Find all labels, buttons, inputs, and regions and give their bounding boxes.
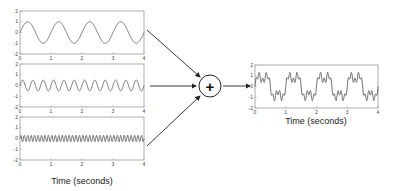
svg-text:2: 2 xyxy=(15,8,18,14)
svg-text:-1: -1 xyxy=(14,40,19,46)
svg-text:-1: -1 xyxy=(14,93,19,99)
svg-text:0: 0 xyxy=(19,55,22,61)
svg-text:1: 1 xyxy=(284,109,287,115)
input-plot-3hz: 210-1-201234 xyxy=(14,61,146,114)
sum-node: + xyxy=(199,75,221,97)
svg-text:1: 1 xyxy=(50,55,53,61)
input-plot-9hz: 210-1-201234 xyxy=(14,114,146,167)
input-plot-1hz: 210-1-201234 xyxy=(14,8,146,61)
svg-text:0: 0 xyxy=(250,83,253,89)
svg-text:0: 0 xyxy=(15,29,18,35)
svg-text:4: 4 xyxy=(377,109,380,115)
svg-text:-1: -1 xyxy=(249,94,254,100)
svg-text:1: 1 xyxy=(50,108,53,114)
sum-of-sinusoids-diagram: 210-1-201234 210-1-201234 210-1-201234 2… xyxy=(0,0,396,191)
svg-text:2: 2 xyxy=(81,55,84,61)
svg-text:-1: -1 xyxy=(14,146,19,152)
svg-text:-2: -2 xyxy=(14,51,19,57)
svg-text:3: 3 xyxy=(112,161,115,167)
input-x-axis-label: Time (seconds) xyxy=(51,176,113,186)
arrow-input-1 xyxy=(147,30,200,77)
svg-text:0: 0 xyxy=(15,82,18,88)
plus-icon: + xyxy=(206,78,215,95)
svg-text:-2: -2 xyxy=(14,104,19,110)
svg-text:2: 2 xyxy=(81,161,84,167)
svg-text:1: 1 xyxy=(15,18,18,24)
svg-text:2: 2 xyxy=(250,62,253,68)
svg-text:3: 3 xyxy=(112,108,115,114)
svg-text:3: 3 xyxy=(112,55,115,61)
output-plot-sum: 210-1-201234 xyxy=(249,62,380,115)
svg-text:0: 0 xyxy=(19,108,22,114)
svg-text:4: 4 xyxy=(143,55,146,61)
svg-text:0: 0 xyxy=(19,161,22,167)
svg-text:1: 1 xyxy=(50,161,53,167)
svg-text:2: 2 xyxy=(81,108,84,114)
svg-text:0: 0 xyxy=(254,109,257,115)
svg-text:2: 2 xyxy=(15,114,18,120)
svg-text:-2: -2 xyxy=(249,105,254,111)
output-x-axis-label: Time (seconds) xyxy=(285,116,347,126)
svg-text:2: 2 xyxy=(15,61,18,67)
svg-text:4: 4 xyxy=(143,161,146,167)
svg-text:-2: -2 xyxy=(14,157,19,163)
svg-text:4: 4 xyxy=(143,108,146,114)
svg-text:2: 2 xyxy=(315,109,318,115)
svg-text:0: 0 xyxy=(15,135,18,141)
svg-text:1: 1 xyxy=(15,71,18,77)
svg-text:1: 1 xyxy=(250,72,253,78)
svg-text:1: 1 xyxy=(15,124,18,130)
svg-text:3: 3 xyxy=(346,109,349,115)
arrow-input-3 xyxy=(147,96,200,146)
